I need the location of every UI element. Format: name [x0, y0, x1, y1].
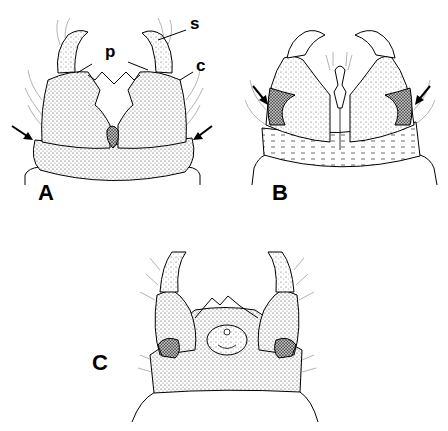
annotation-c: c: [196, 56, 205, 76]
panel-c-drawing: [132, 252, 318, 422]
annotation-s: s: [190, 14, 199, 34]
panel-b-drawing: [245, 31, 437, 185]
arrow-icon: [415, 86, 430, 105]
panel-label-a: A: [38, 180, 54, 206]
arrow-icon: [12, 126, 33, 140]
panel-label-b: B: [272, 180, 288, 206]
panel-label-c: C: [92, 350, 108, 376]
figure-illustration: [0, 0, 448, 431]
arrow-icon: [193, 126, 212, 140]
annotation-p: p: [105, 42, 115, 62]
